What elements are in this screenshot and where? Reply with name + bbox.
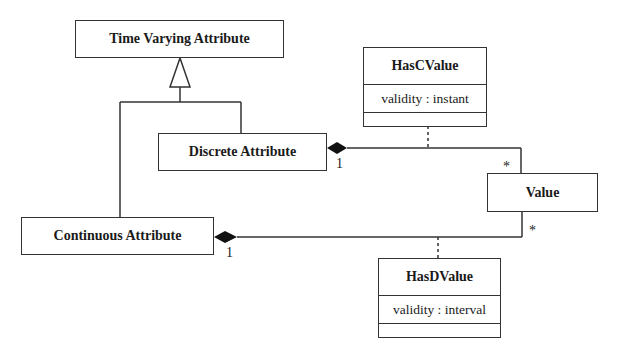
- class-operations: [364, 112, 486, 126]
- generalization-triangle-icon: [170, 58, 190, 87]
- class-time-varying-attribute: Time Varying Attribute: [75, 20, 284, 58]
- class-has-d-value: HasDValue validity : interval: [378, 258, 501, 338]
- class-name: Discrete Attribute: [159, 134, 326, 170]
- composition-diamond-icon: [327, 142, 347, 154]
- multiplicity-discrete: 1: [336, 157, 343, 171]
- class-discrete-attribute: Discrete Attribute: [158, 133, 327, 171]
- multiplicity-value-bottom: *: [529, 224, 536, 238]
- class-value: Value: [487, 173, 598, 212]
- class-name: Continuous Attribute: [22, 218, 213, 254]
- class-operations: [379, 323, 500, 337]
- class-has-c-value: HasCValue validity : instant: [363, 47, 487, 127]
- multiplicity-continuous: 1: [226, 246, 233, 260]
- class-continuous-attribute: Continuous Attribute: [21, 217, 214, 255]
- class-name: Value: [488, 174, 597, 211]
- class-attribute: validity : instant: [364, 84, 486, 112]
- class-name: HasDValue: [379, 259, 500, 295]
- class-name: HasCValue: [364, 48, 486, 84]
- composition-diamond-icon: [214, 231, 237, 243]
- multiplicity-value-top: *: [503, 160, 510, 174]
- class-attribute: validity : interval: [379, 295, 500, 323]
- class-name: Time Varying Attribute: [76, 21, 283, 57]
